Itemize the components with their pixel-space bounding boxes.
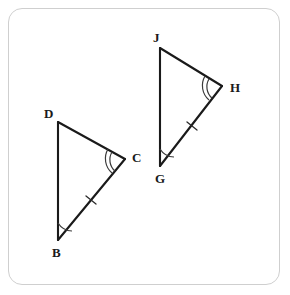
segment-dc (58, 122, 125, 159)
vertex-label-c: C (132, 150, 141, 165)
vertex-label-b: B (52, 245, 61, 260)
segment-jh (160, 48, 222, 86)
segment-cb (58, 159, 125, 240)
vertex-label-d: D (44, 106, 53, 121)
vertex-label-h: H (230, 80, 240, 95)
geometry-canvas: D C B J H G (0, 0, 290, 295)
triangle-bcd: D C B (44, 106, 141, 260)
triangle-ghj: J H G (153, 30, 240, 186)
vertex-label-g: G (155, 171, 165, 186)
figure-panel: D C B J H G (0, 0, 290, 295)
vertex-label-j: J (153, 30, 160, 45)
